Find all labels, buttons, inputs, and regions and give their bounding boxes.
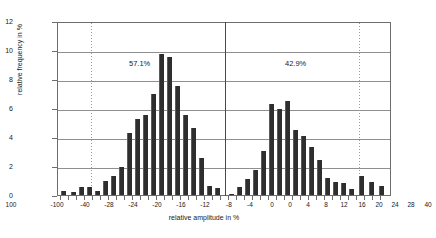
x-tick-mark	[140, 196, 141, 200]
y-tick-label-6: 6	[0, 105, 13, 112]
bar	[199, 158, 204, 195]
x-tick-mark	[316, 196, 317, 200]
bar	[127, 133, 132, 195]
x-tick-label: -24	[122, 201, 144, 208]
x-tick-mark	[156, 196, 157, 200]
x-tick-mark	[260, 196, 261, 200]
y-tick-label-12: 12	[0, 18, 13, 25]
bar	[237, 187, 242, 195]
x-tick-mark	[180, 196, 181, 200]
x-tick-mark	[228, 196, 229, 200]
x-tick-mark	[100, 196, 101, 200]
bar	[379, 186, 384, 195]
x-tick-mark	[268, 196, 269, 200]
y-tick-label-10: 10	[0, 47, 13, 54]
x-tick-mark	[164, 196, 165, 200]
bar	[61, 191, 66, 195]
x-tick-mark	[196, 196, 197, 200]
x-tick-label: 100	[0, 201, 22, 208]
x-tick-mark	[60, 196, 61, 200]
bars-layer	[58, 23, 390, 195]
x-tick-mark	[220, 196, 221, 200]
x-tick-mark	[252, 196, 253, 200]
x-tick-mark	[276, 196, 277, 200]
bar	[79, 187, 84, 195]
x-tick-mark	[76, 196, 77, 200]
bar	[135, 119, 140, 195]
x-tick-mark	[212, 196, 213, 200]
x-tick-mark	[108, 196, 109, 200]
bar	[301, 136, 306, 195]
bar	[309, 147, 314, 195]
x-tick-label: -4	[239, 201, 261, 208]
bar	[111, 176, 116, 195]
bar	[333, 182, 338, 195]
x-tick-mark	[364, 196, 365, 200]
y-axis-title: relative frequency in %	[16, 5, 23, 115]
x-tick-mark	[172, 196, 173, 200]
bar	[183, 115, 188, 195]
x-tick-mark	[308, 196, 309, 200]
bar	[341, 183, 346, 195]
x-tick-mark	[236, 196, 237, 200]
y-tick-label-0: 0	[0, 192, 13, 199]
x-tick-label: -12	[194, 201, 216, 208]
bar	[317, 160, 322, 195]
bar	[191, 128, 196, 195]
bar	[159, 54, 164, 195]
bar	[95, 191, 100, 195]
x-tick-mark	[300, 196, 301, 200]
bar	[285, 101, 290, 195]
x-tick-mark	[148, 196, 149, 200]
x-tick-mark	[332, 196, 333, 200]
bar	[325, 178, 330, 195]
x-tick-mark	[188, 196, 189, 200]
x-tick-mark	[84, 196, 85, 200]
bar	[215, 188, 220, 195]
x-tick-mark	[284, 196, 285, 200]
bar	[293, 130, 298, 195]
zero-axis-divider	[225, 22, 226, 196]
x-tick-mark	[116, 196, 117, 200]
bar	[119, 167, 124, 195]
bar	[269, 104, 274, 195]
plot-area: 57.1% 42.9%	[57, 22, 391, 196]
y-tick-mark-0	[52, 196, 57, 197]
x-tick-mark	[68, 196, 69, 200]
y-tick-label-4: 4	[0, 134, 13, 141]
bar	[369, 182, 374, 195]
annotation-right-share: 42.9%	[285, 59, 306, 68]
x-tick-mark	[356, 196, 357, 200]
y-tick-label-8: 8	[0, 76, 13, 83]
x-tick-label: 40	[417, 201, 436, 208]
x-tick-mark	[132, 196, 133, 200]
x-tick-mark	[380, 196, 381, 200]
x-tick-mark	[372, 196, 373, 200]
x-tick-mark	[244, 196, 245, 200]
bar	[167, 57, 172, 195]
x-tick-label: -100	[46, 201, 68, 208]
bar	[253, 170, 258, 195]
x-tick-mark	[292, 196, 293, 200]
x-tick-mark	[92, 196, 93, 200]
bar	[143, 115, 148, 195]
x-tick-mark	[324, 196, 325, 200]
bar	[229, 194, 234, 195]
bar	[103, 181, 108, 196]
annotation-left-share: 57.1%	[129, 59, 150, 68]
y-tick-label-2: 2	[0, 163, 13, 170]
bar	[349, 189, 354, 195]
x-tick-label: -16	[170, 201, 192, 208]
bar	[245, 179, 250, 195]
bar	[207, 186, 212, 195]
x-tick-label: -20	[146, 201, 168, 208]
x-tick-label: -8	[218, 201, 240, 208]
bar	[87, 187, 92, 195]
x-tick-mark	[124, 196, 125, 200]
bar	[261, 151, 266, 195]
x-tick-mark	[340, 196, 341, 200]
x-tick-mark	[204, 196, 205, 200]
bar	[359, 176, 364, 195]
x-axis-title: relative amplitude in %	[0, 214, 408, 221]
